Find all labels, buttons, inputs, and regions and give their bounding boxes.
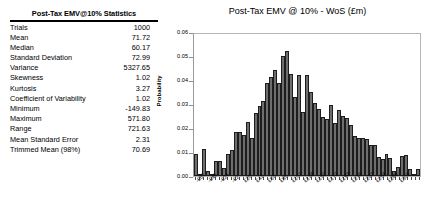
stat-label: Median — [10, 43, 112, 53]
x-axis-tick-label: £63 — [267, 174, 277, 184]
stat-label: Mean Standard Error — [10, 134, 112, 144]
stat-value: 1.02 — [112, 93, 158, 103]
stat-value: 1.02 — [112, 73, 158, 83]
stat-value: 70.69 — [112, 144, 158, 154]
y-axis-tick — [189, 81, 193, 82]
y-axis-tick — [189, 177, 193, 178]
stat-value: 5327.65 — [112, 63, 158, 73]
y-axis-tick — [189, 57, 193, 58]
y-axis-tick-label: 0.02 — [164, 126, 188, 132]
histogram-bar — [194, 154, 198, 176]
table-row: Trials1000 — [10, 22, 158, 33]
stat-label: Maximum — [10, 114, 112, 124]
table-row: Range721.63 — [10, 124, 158, 134]
table-row: Mean71.72 — [10, 32, 158, 42]
stat-label: Skewness — [10, 73, 112, 83]
chart-panel: Post-Tax EMV @ 10% - WoS (£m) 0.060.050.… — [160, 0, 435, 206]
x-axis-tick-label: £85 — [279, 174, 289, 184]
y-axis-labels: 0.060.050.040.030.020.010.00 — [160, 0, 188, 206]
histogram-bar — [416, 169, 420, 176]
stat-label: Kurtosis — [10, 83, 112, 93]
stat-label: Range — [10, 124, 112, 134]
stat-value: -149.83 — [112, 104, 158, 114]
table-row: Skewness1.02 — [10, 73, 158, 83]
histogram-bars — [194, 34, 420, 176]
stat-label: Trials — [10, 22, 112, 33]
stat-value: 571.80 — [112, 114, 158, 124]
y-axis-tick-label: 0.00 — [164, 174, 188, 180]
y-axis-tick-label: 0.03 — [164, 102, 188, 108]
y-axis-tick — [189, 105, 193, 106]
stat-value: 60.17 — [112, 43, 158, 53]
stat-value: 72.99 — [112, 53, 158, 63]
y-axis-tick — [189, 33, 193, 34]
table-row: Kurtosis3.27 — [10, 83, 158, 93]
y-axis-tick-label: 0.04 — [164, 78, 188, 84]
table-row: Median60.17 — [10, 43, 158, 53]
table-row: Variance5327.65 — [10, 63, 158, 73]
y-axis-tick-label: 0.06 — [164, 30, 188, 36]
stat-value: 71.72 — [112, 32, 158, 42]
y-axis-tick-label: 0.05 — [164, 54, 188, 60]
stat-value: 2.31 — [112, 134, 158, 144]
table-row: Mean Standard Error2.31 — [10, 134, 158, 144]
y-axis-tick-label: 0.01 — [164, 150, 188, 156]
table-row: Minimum-149.83 — [10, 104, 158, 114]
statistics-title: Post-Tax EMV@10% Statistics — [10, 9, 158, 21]
x-axis-tick-label: £20 — [243, 174, 253, 184]
chart-title: Post-Tax EMV @ 10% - WoS (£m) — [160, 6, 435, 16]
statistics-table-body: Trials1000Mean71.72Median60.17Standard D… — [10, 22, 158, 155]
x-axis-labels: -£67-£46-£24-£2£20£42£63£85£107£128£150£… — [193, 180, 421, 206]
stat-label: Variance — [10, 63, 112, 73]
plot-area — [193, 33, 421, 177]
stat-label: Coefficient of Variability — [10, 93, 112, 103]
stat-value: 721.63 — [112, 124, 158, 134]
stat-value: 3.27 — [112, 83, 158, 93]
table-row: Maximum571.80 — [10, 114, 158, 124]
stat-label: Minimum — [10, 104, 112, 114]
y-axis-tick — [189, 153, 193, 154]
table-row: Coefficient of Variability1.02 — [10, 93, 158, 103]
stat-label: Trimmed Mean (98%) — [10, 144, 112, 154]
y-axis-title: Probability — [156, 75, 162, 106]
stat-label: Mean — [10, 32, 112, 42]
table-row: Trimmed Mean (98%)70.69 — [10, 144, 158, 154]
x-axis-tick-label: £42 — [255, 174, 265, 184]
stat-value: 1000 — [112, 22, 158, 33]
y-axis-tick — [189, 129, 193, 130]
statistics-panel: Post-Tax EMV@10% Statistics Trials1000Me… — [10, 9, 158, 154]
table-row: Standard Deviation72.99 — [10, 53, 158, 63]
stat-label: Standard Deviation — [10, 53, 112, 63]
statistics-table: Trials1000Mean71.72Median60.17Standard D… — [10, 21, 158, 154]
